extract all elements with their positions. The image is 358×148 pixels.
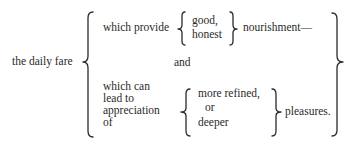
subject-text: the daily fare (12, 55, 73, 67)
left-brace-small-icon (178, 12, 186, 46)
right-brace-large-icon (332, 13, 346, 137)
branch-1-option-good: good, (192, 14, 218, 26)
branch-2-option-more-refined: more refined, (198, 87, 260, 99)
connector-and: and (174, 56, 191, 68)
branch-1-tail: nourishment— (243, 21, 312, 33)
branch-2-option-or: or (205, 101, 215, 113)
branch-2-tail: pleasures. (285, 105, 331, 117)
branch-1-option-honest: honest (192, 28, 222, 40)
branch-1-lead: which provide (103, 21, 169, 33)
branch-2-option-deeper: deeper (198, 116, 229, 128)
branch-2-lead-line-3: appreciation (103, 104, 160, 116)
left-brace-medium-icon (181, 89, 191, 137)
right-brace-small-icon (230, 12, 238, 46)
left-brace-large-icon (82, 12, 94, 138)
branch-2-lead-line-4: of (103, 116, 113, 128)
branch-2-lead-line-1: which can (103, 80, 150, 92)
right-brace-medium-icon (272, 89, 282, 137)
branch-2-lead-line-2: lead to (103, 92, 134, 104)
